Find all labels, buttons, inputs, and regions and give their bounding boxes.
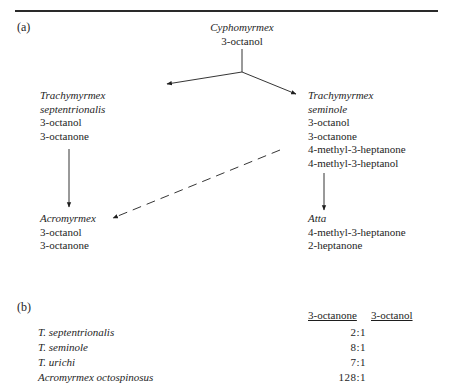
table-row-ratio: 8:1 — [306, 340, 366, 355]
table-row-species: Acromyrmex octospinosus — [38, 370, 153, 385]
table-row-ratio: 2:1 — [306, 325, 366, 340]
column-header-octanone: 3-octanone — [308, 308, 357, 322]
table-row-ratio: 128:1 — [306, 370, 366, 385]
arrow-to-septentrionalis — [167, 72, 242, 84]
table-row-species: T. septentrionalis — [38, 325, 114, 340]
panel-b-label: (b) — [17, 301, 31, 314]
table-row-species: T. seminole — [38, 340, 88, 355]
table-row-species: T. urichi — [38, 355, 75, 370]
table-row-ratio: 7:1 — [306, 355, 366, 370]
column-header-octanol: 3-octanol — [371, 308, 413, 322]
dashed-arrow-seminole-to-acromyrmex — [113, 150, 280, 218]
arrow-to-seminole — [242, 72, 296, 94]
